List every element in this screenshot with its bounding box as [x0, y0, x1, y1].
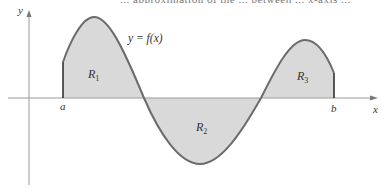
y-axis-arrow-icon [27, 10, 32, 17]
curve-label: y = f(x) [127, 32, 163, 45]
label-a: a [60, 100, 66, 112]
label-b: b [331, 102, 337, 114]
x-axis-arrow-icon [370, 96, 378, 101]
area-diagram: y x a b y = f(x) R1 R2 R3 [0, 0, 383, 190]
y-axis-label: y [17, 4, 23, 16]
shaded-region-area [63, 17, 334, 164]
x-axis-label: x [372, 103, 378, 115]
